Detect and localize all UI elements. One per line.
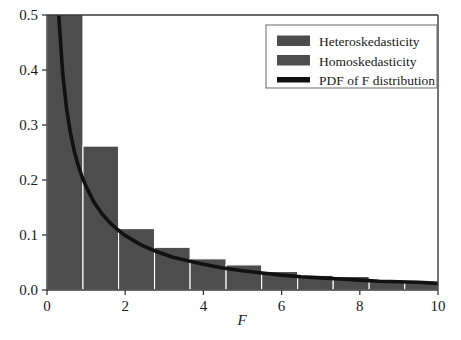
legend-swatch-bar <box>277 36 310 47</box>
y-tick-label: 0.3 <box>19 117 38 133</box>
x-tick-label: 8 <box>356 298 364 314</box>
legend-label: PDF of F distribution <box>319 73 435 88</box>
x-tick-label: 2 <box>121 298 129 314</box>
f-distribution-histogram-chart: 0246810 0.00.10.20.30.40.5 F Heteroskeda… <box>0 0 461 340</box>
x-tick-label: 4 <box>200 298 208 314</box>
y-tick-label: 0.4 <box>19 62 38 78</box>
chart-legend: HeteroskedasticityHomoskedasticityPDF of… <box>266 25 437 88</box>
histogram-bar <box>83 146 119 290</box>
legend-swatch-bar <box>277 55 310 66</box>
histogram-bar <box>119 229 155 290</box>
legend-label: Heteroskedasticity <box>319 34 420 49</box>
x-tick-label: 0 <box>43 298 51 314</box>
y-tick-label: 0.2 <box>19 172 38 188</box>
y-tick-label: 0.0 <box>19 282 38 298</box>
x-tick-label: 10 <box>431 298 446 314</box>
legend-swatch-line <box>277 77 310 83</box>
legend-label: Homoskedasticity <box>319 54 417 69</box>
x-tick-label: 6 <box>278 298 286 314</box>
y-tick-label: 0.1 <box>19 227 38 243</box>
x-axis-title: F <box>236 312 247 328</box>
y-tick-label: 0.5 <box>19 7 38 23</box>
chart-figure: 0246810 0.00.10.20.30.40.5 F Heteroskeda… <box>0 0 461 340</box>
histogram-bar <box>47 13 83 290</box>
